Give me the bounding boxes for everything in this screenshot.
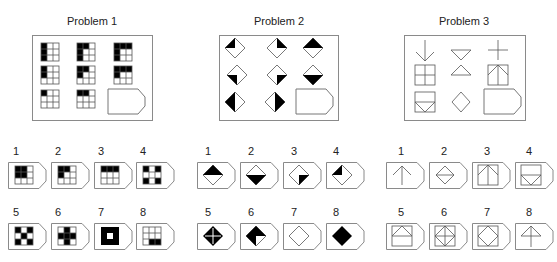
- p2-option-1[interactable]: [198, 163, 236, 189]
- p3-option-1[interactable]: [387, 163, 425, 189]
- p3-option-3[interactable]: [473, 163, 511, 189]
- p3-option-2[interactable]: [430, 163, 468, 189]
- p1-option-2[interactable]: [52, 163, 90, 189]
- p3-option-7[interactable]: [473, 224, 511, 250]
- answer-options: [0, 0, 557, 262]
- p2-option-3[interactable]: [284, 163, 322, 189]
- p3-option-5[interactable]: [387, 224, 425, 250]
- p2-option-6[interactable]: [241, 224, 279, 250]
- p1-option-6[interactable]: [52, 224, 90, 250]
- p3-option-6[interactable]: [430, 224, 468, 250]
- p2-option-2[interactable]: [241, 163, 279, 189]
- p1-option-7[interactable]: [95, 224, 133, 250]
- p2-option-8[interactable]: [327, 224, 365, 250]
- p3-option-4[interactable]: [516, 163, 554, 189]
- p3-option-8[interactable]: [516, 224, 554, 250]
- p1-option-1[interactable]: [9, 163, 47, 189]
- p2-option-4[interactable]: [327, 163, 365, 189]
- p1-option-8[interactable]: [137, 224, 175, 250]
- p1-option-3[interactable]: [95, 163, 133, 189]
- p1-option-5[interactable]: [9, 224, 47, 250]
- p2-option-5[interactable]: [198, 224, 236, 250]
- p2-option-7[interactable]: [284, 224, 322, 250]
- p1-option-4[interactable]: [137, 163, 175, 189]
